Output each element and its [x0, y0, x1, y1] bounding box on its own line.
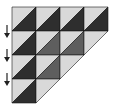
down-arrow-icon	[4, 73, 10, 86]
edge-triangle	[84, 31, 108, 55]
down-arrow-icon	[4, 25, 10, 38]
edge-triangle	[60, 55, 84, 79]
staircase-diagram	[0, 0, 114, 108]
edge-triangle	[36, 79, 60, 103]
down-arrow-icon	[4, 49, 10, 62]
